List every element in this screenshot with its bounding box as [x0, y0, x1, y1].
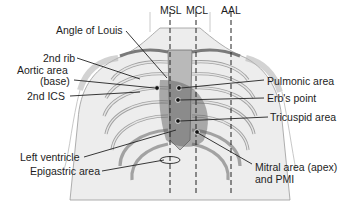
chest-auscultation-diagram: MSL MCL AAL Angle of Louis 2nd rib Aorti…: [0, 0, 356, 201]
label-epigastric-area: Epigastric area: [30, 165, 100, 177]
tricuspid-point: [176, 119, 181, 124]
label-tricuspid-area: Tricuspid area: [270, 111, 336, 123]
label-erbs-point: Erb's point: [267, 92, 316, 104]
label-mitral-area: Mitral area (apex): [255, 161, 337, 173]
aortic-point: [155, 86, 160, 91]
label-pulmonic-area: Pulmonic area: [267, 75, 334, 87]
pulmonic-point: [177, 86, 182, 91]
label-mitral-area-pmi: and PMI: [255, 173, 294, 185]
aal-label: AAL: [221, 4, 241, 16]
erbs-point-marker: [176, 98, 181, 103]
msl-label: MSL: [160, 4, 182, 16]
label-left-ventricle: Left ventricle: [20, 151, 80, 163]
label-2nd-rib: 2nd rib: [43, 52, 75, 64]
label-2nd-ics: 2nd ICS: [27, 90, 65, 102]
mcl-label: MCL: [186, 4, 208, 16]
label-aortic-area-base: (base): [40, 75, 70, 87]
label-angle-of-louis: Angle of Louis: [56, 24, 123, 36]
